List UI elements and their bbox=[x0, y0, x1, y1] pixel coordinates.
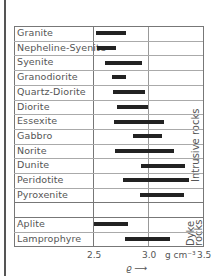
row-divider bbox=[14, 202, 203, 203]
row-label: Granite bbox=[17, 26, 53, 40]
x-tick-3-5: 3.5 bbox=[197, 250, 211, 260]
row-label: Norite bbox=[17, 144, 47, 158]
density-range-bar bbox=[94, 222, 128, 226]
row-label: Dunite bbox=[17, 158, 49, 172]
x-axis-symbol: ϱ ⟶ bbox=[126, 263, 147, 273]
density-range-bar bbox=[125, 237, 170, 241]
axis-line-2-5 bbox=[93, 26, 94, 247]
density-range-bar bbox=[114, 120, 165, 124]
row-label: Essexite bbox=[17, 114, 57, 128]
row-label: Syenite bbox=[17, 55, 53, 69]
row-label: Peridotite bbox=[17, 173, 64, 187]
row-label: Pyroxenite bbox=[17, 188, 68, 202]
density-range-bar bbox=[141, 164, 185, 168]
density-range-bar bbox=[96, 31, 126, 35]
density-range-bar bbox=[133, 134, 163, 138]
density-range-bar bbox=[123, 178, 189, 182]
x-unit: g cm⁻³ bbox=[165, 250, 196, 260]
row-label: Diorite bbox=[17, 100, 50, 114]
row-divider bbox=[14, 246, 203, 247]
density-range-bar bbox=[112, 75, 126, 79]
table-right-border bbox=[203, 26, 204, 247]
density-range-bar bbox=[105, 61, 142, 65]
density-range-bar bbox=[113, 90, 145, 94]
row-label: Lamprophyre bbox=[17, 232, 81, 246]
density-range-bar bbox=[115, 149, 174, 153]
group-label-intrusive: Intrusive rocks bbox=[190, 109, 201, 182]
row-label: Nepheline-Syenite bbox=[17, 41, 106, 55]
row-label: Aplite bbox=[17, 217, 45, 231]
row-label: Granodiorite bbox=[17, 70, 78, 84]
x-tick-2-5: 2.5 bbox=[87, 250, 101, 260]
table-left-border bbox=[14, 26, 15, 247]
row-label: Quartz-Diorite bbox=[17, 85, 86, 99]
density-range-bar bbox=[117, 105, 148, 109]
density-range-bar bbox=[140, 193, 184, 197]
x-tick-3-0: 3.0 bbox=[142, 250, 156, 260]
row-label: Gabbro bbox=[17, 129, 52, 143]
density-range-chart: Intrusive rocks Dyke rocks 2.5 3.0 g cm⁻… bbox=[0, 0, 221, 276]
density-range-bar bbox=[97, 46, 116, 50]
